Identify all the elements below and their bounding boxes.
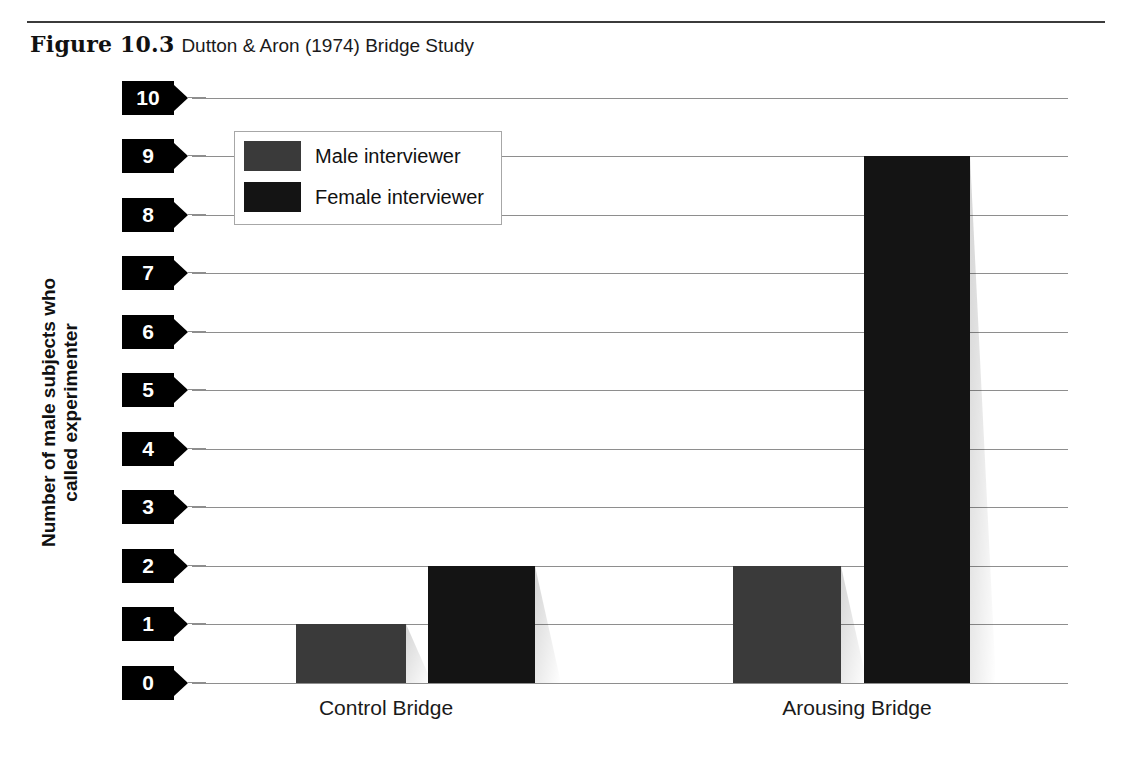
gridline-0 [192,683,1068,684]
y-axis-title-line-2: called experimenter [60,212,82,612]
y-tick-6: 6 [122,315,186,349]
y-tick-label: 7 [122,256,174,290]
legend-label-female: Female interviewer [315,180,484,214]
y-tick-arrow-icon [174,260,188,286]
y-tick-4: 4 [122,432,186,466]
y-tick-9: 9 [122,139,186,173]
y-tick-5: 5 [122,373,186,407]
y-tick-label: 4 [122,432,174,466]
legend-swatch-female [244,182,301,212]
y-tick-arrow-icon [174,611,188,637]
y-tick-arrow-icon [174,85,188,111]
y-tick-8: 8 [122,198,186,232]
y-tick-stub [188,506,206,507]
bar-arousing-male [733,566,841,683]
y-tick-stub [188,565,206,566]
y-tick-arrow-icon [174,319,188,345]
chart-plot-area: 10 9 8 7 6 5 4 3 [0,0,1122,759]
y-tick-0: 0 [122,666,186,700]
legend-label-male: Male interviewer [315,139,461,173]
y-tick-label: 3 [122,490,174,524]
y-axis-title-line-1: Number of male subjects who [38,212,60,612]
y-tick-stub [188,389,206,390]
x-label-arousing-bridge: Arousing Bridge [732,696,982,720]
y-tick-arrow-icon [174,377,188,403]
chart-legend: Male interviewer Female interviewer [234,131,502,225]
y-tick-arrow-icon [174,143,188,169]
y-tick-stub [188,331,206,332]
y-tick-stub [188,97,206,98]
bar-body [733,566,841,683]
y-tick-arrow-icon [174,436,188,462]
y-tick-10: 10 [122,81,186,115]
bar-body [428,566,535,683]
y-tick-arrow-icon [174,553,188,579]
bar-control-female [428,566,535,683]
y-axis-title: Number of male subjects who called exper… [38,212,83,612]
y-tick-label: 9 [122,139,174,173]
y-tick-label: 2 [122,549,174,583]
bar-body [864,156,970,683]
gridline-10 [192,98,1068,99]
y-tick-label: 6 [122,315,174,349]
y-tick-2: 2 [122,549,186,583]
y-tick-1: 1 [122,607,186,641]
y-tick-3: 3 [122,490,186,524]
y-tick-stub [188,272,206,273]
x-label-control-bridge: Control Bridge [266,696,506,720]
bar-shadow [970,156,996,683]
y-tick-arrow-icon [174,494,188,520]
y-tick-label: 10 [122,81,174,115]
bar-control-male [296,624,406,683]
legend-swatch-male [244,141,301,171]
bar-arousing-female [864,156,970,683]
y-tick-arrow-icon [174,202,188,228]
y-tick-label: 0 [122,666,174,700]
y-tick-7: 7 [122,256,186,290]
y-tick-stub [188,214,206,215]
y-tick-stub [188,682,206,683]
bar-body [296,624,406,683]
y-tick-arrow-icon [174,670,188,696]
y-tick-stub [188,623,206,624]
y-tick-label: 5 [122,373,174,407]
y-tick-label: 8 [122,198,174,232]
y-tick-label: 1 [122,607,174,641]
y-tick-stub [188,155,206,156]
y-tick-stub [188,448,206,449]
